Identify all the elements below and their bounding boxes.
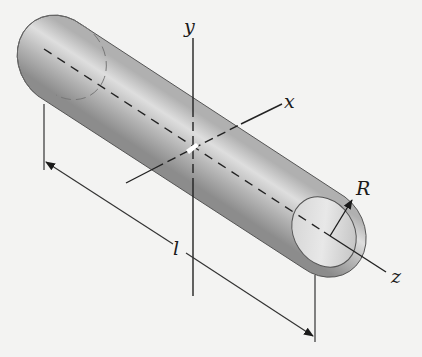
- x-axis-right: [241, 104, 282, 124]
- radius-label: R: [355, 177, 370, 199]
- length-label: l: [173, 237, 179, 259]
- z-axis-hidden: [44, 49, 324, 232]
- z-axis-label: z: [390, 265, 402, 287]
- length-dimension-right: [186, 253, 313, 336]
- x-axis-left: [126, 168, 155, 183]
- diagram-canvas: y x z R l: [0, 0, 422, 357]
- length-dimension-left: [46, 162, 173, 244]
- x-axis-label: x: [284, 90, 295, 112]
- y-axis-label: y: [183, 15, 195, 37]
- cylinder-diagram: y x z R l: [0, 0, 422, 357]
